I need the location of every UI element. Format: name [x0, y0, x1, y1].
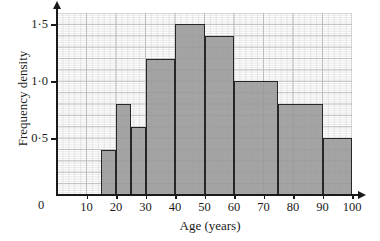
histogram-bar [146, 59, 176, 196]
origin-tick-label: 0 [38, 199, 44, 212]
histogram-bar [101, 150, 116, 196]
y-axis-arrow-icon [53, 1, 61, 9]
x-axis-tick [146, 195, 148, 199]
x-axis-arrow-icon [358, 191, 366, 199]
y-axis-tick [51, 24, 57, 26]
x-axis-tick [175, 195, 177, 199]
x-axis-tick [323, 195, 325, 199]
histogram-bar [205, 36, 235, 195]
x-axis-tick [264, 195, 266, 199]
histogram-bar [323, 138, 353, 195]
x-axis-tick [116, 195, 118, 199]
histogram-bar [278, 104, 322, 195]
y-axis-line [56, 8, 58, 196]
histogram-bar [175, 24, 205, 195]
x-axis-tick [293, 195, 295, 199]
x-axis-tick [205, 195, 207, 199]
histogram-bar [234, 81, 278, 195]
y-axis-tick [51, 138, 57, 140]
x-axis-title: Age (years) [120, 219, 300, 232]
y-axis-tick [51, 81, 57, 83]
x-axis-tick [234, 195, 236, 199]
histogram-bar [131, 127, 146, 195]
bars-layer [57, 13, 352, 195]
plot-area [57, 13, 352, 195]
histogram-chart: 102030405060708090100 0·51·01·5 0 Age (y… [0, 0, 380, 241]
x-axis-tick [87, 195, 89, 199]
y-axis-title: Frequency density [16, 19, 29, 179]
x-axis-line [56, 194, 360, 196]
x-axis-tick-label: 100 [332, 201, 372, 214]
histogram-bar [116, 104, 131, 195]
x-axis-tick [352, 195, 354, 199]
